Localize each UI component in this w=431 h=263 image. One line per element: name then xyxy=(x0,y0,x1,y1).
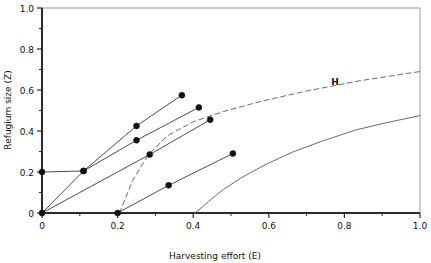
data-point-marker xyxy=(134,123,140,129)
y-tick-label: 0.6 xyxy=(20,86,35,96)
y-tick-label: 0.8 xyxy=(20,45,35,55)
chart-plot: 00.20.40.60.81.000.20.40.60.81.0 H Harve… xyxy=(0,0,431,263)
data-point-marker xyxy=(196,104,202,110)
y-tick-label: 0.4 xyxy=(20,127,35,137)
data-point-marker xyxy=(39,169,45,175)
data-markers-group xyxy=(39,92,236,216)
figure-container: 00.20.40.60.81.000.20.40.60.81.0 H Harve… xyxy=(0,0,431,263)
data-series-group xyxy=(42,72,420,213)
x-tick-label: 0.4 xyxy=(186,221,201,231)
data-point-marker xyxy=(147,152,153,158)
series-line-isocline-1 xyxy=(42,95,182,172)
x-tick-label: 0 xyxy=(39,221,45,231)
y-tick-label: 1.0 xyxy=(20,4,35,14)
data-point-marker xyxy=(179,92,185,98)
x-tick-label: 1.0 xyxy=(413,221,428,231)
tick-labels-group: 00.20.40.60.81.000.20.40.60.81.0 xyxy=(20,4,428,232)
y-axis-title: Refugium size (Z) xyxy=(3,70,13,149)
x-axis-title: Harvesting effort (E) xyxy=(169,251,261,261)
data-point-marker xyxy=(230,151,236,157)
x-tick-label: 0.6 xyxy=(262,221,277,231)
data-point-marker xyxy=(81,168,87,174)
annotations-group: H xyxy=(331,77,339,87)
y-tick-label: 0.2 xyxy=(20,168,34,178)
x-tick-label: 0.8 xyxy=(337,221,352,231)
data-point-marker xyxy=(166,182,172,188)
x-tick-label: 0.2 xyxy=(110,221,124,231)
data-point-marker xyxy=(115,210,121,216)
series-line-lower-solid-curve xyxy=(195,116,420,213)
y-tick-label: 0 xyxy=(28,209,34,219)
data-point-marker xyxy=(134,137,140,143)
data-point-marker xyxy=(207,117,213,123)
series-line-isocline-3 xyxy=(42,120,210,213)
data-point-marker xyxy=(39,210,45,216)
series-line-isocline-2 xyxy=(42,107,199,213)
series-line-harvest-curve-H xyxy=(119,72,420,213)
curve-label-h: H xyxy=(331,77,339,87)
